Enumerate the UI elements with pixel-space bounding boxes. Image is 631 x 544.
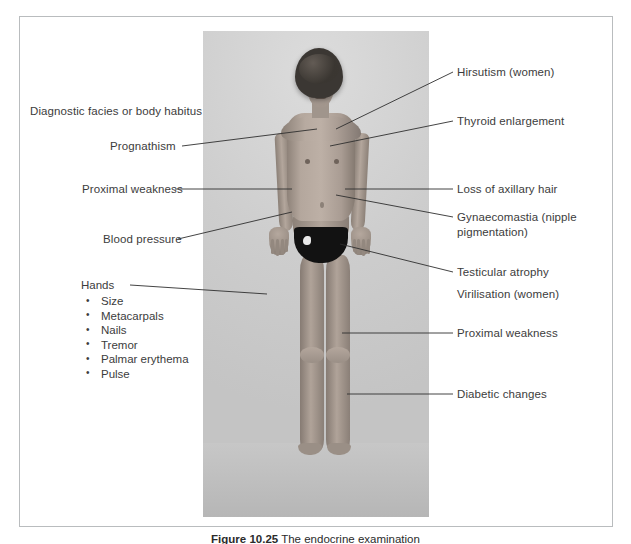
hands-title: Hands — [81, 278, 189, 293]
list-item: Tremor — [81, 338, 189, 353]
list-item: Palmar erythema — [81, 352, 189, 367]
label-diagnostic-facies: Diagnostic facies or body habitus — [30, 104, 202, 119]
nipple-right — [334, 159, 339, 164]
list-item: Metacarpals — [81, 309, 189, 324]
figure-caption-number: Figure 10.25 — [211, 533, 278, 544]
figure-frame: Diagnostic facies or body habitus Progna… — [19, 16, 613, 527]
label-diabetic-changes: Diabetic changes — [457, 387, 547, 402]
label-proximal-weakness-lower: Proximal weakness — [457, 326, 558, 341]
label-prognathism: Prognathism — [110, 139, 176, 154]
list-item: Pulse — [81, 367, 189, 382]
knee-left — [300, 347, 324, 363]
label-gynaecomastia: Gynaecomastia (nipple pigmentation) — [457, 210, 597, 240]
label-loss-axillary-hair: Loss of axillary hair — [457, 182, 558, 197]
hands-list: Size Metacarpals Nails Tremor Palmar ery… — [81, 294, 189, 381]
clinical-photograph — [203, 31, 429, 517]
label-blood-pressure: Blood pressure — [103, 232, 182, 247]
figure-page: Diagnostic facies or body habitus Progna… — [0, 0, 631, 544]
list-item: Nails — [81, 323, 189, 338]
knee-right — [326, 347, 350, 363]
label-testicular-atrophy: Testicular atrophy — [457, 265, 549, 280]
hand-left — [269, 227, 289, 255]
navel — [320, 202, 324, 208]
hands-checklist: Hands Size Metacarpals Nails Tremor Palm… — [81, 278, 189, 381]
label-virilisation: Virilisation (women) — [457, 287, 559, 302]
nipple-left — [305, 159, 310, 164]
figure-caption: Figure 10.25 The endocrine examination — [0, 533, 631, 544]
hand-right — [351, 227, 371, 255]
figure-caption-text: The endocrine examination — [281, 533, 420, 544]
list-item: Size — [81, 294, 189, 309]
label-thyroid-enlargement: Thyroid enlargement — [457, 114, 564, 129]
hair — [295, 48, 343, 98]
label-hirsutism: Hirsutism (women) — [457, 65, 555, 80]
label-proximal-weakness-upper: Proximal weakness — [82, 182, 183, 197]
